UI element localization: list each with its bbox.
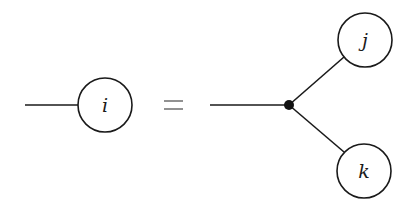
node-k-label: k — [358, 160, 370, 182]
branch-to-k — [289, 105, 344, 152]
node-i-label: i — [102, 94, 108, 116]
junction-dot — [284, 100, 294, 110]
equals-sign — [164, 101, 183, 109]
branch-to-j — [289, 57, 344, 105]
lhs-group: i — [25, 78, 132, 132]
tensor-diagram: i j k — [0, 0, 416, 205]
rhs-group: j k — [210, 13, 392, 198]
